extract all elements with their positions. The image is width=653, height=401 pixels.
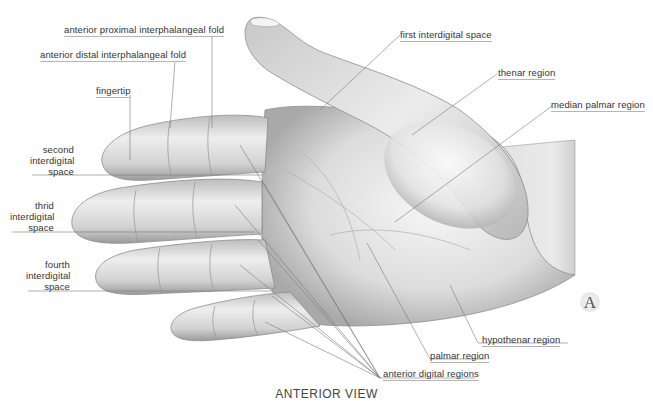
label-fourth-interdigital-space: fourth interdigital space — [26, 259, 70, 292]
label-line: thrid — [10, 200, 54, 211]
label-line: interdigital — [26, 270, 70, 281]
label-anterior-proximal-interphalangeal-fold: anterior proximal interphalangeal fold — [64, 24, 224, 37]
label-fingertip: fingertip — [96, 85, 131, 98]
label-line: fourth — [26, 259, 70, 270]
label-median-palmar-region: median palmar region — [551, 99, 645, 112]
label-second-interdigital-space: second interdigital space — [30, 144, 74, 177]
figure-caption: ANTERIOR VIEW — [0, 387, 653, 401]
label-thenar-region: thenar region — [498, 67, 555, 80]
label-hypothenar-region: hypothenar region — [482, 334, 560, 347]
label-line: space — [30, 166, 74, 177]
label-line: space — [10, 222, 54, 233]
label-line: space — [26, 281, 70, 292]
label-anterior-digital-regions: anterior digital regions — [383, 368, 479, 381]
label-line: interdigital — [10, 211, 54, 222]
label-line: interdigital — [30, 155, 74, 166]
label-line: second — [30, 144, 74, 155]
label-anterior-distal-interphalangeal-fold: anterior distal interphalangeal fold — [40, 49, 186, 62]
label-first-interdigital-space: first interdigital space — [400, 29, 492, 42]
label-palmar-region: palmar region — [430, 350, 489, 363]
label-third-interdigital-space: thrid interdigital space — [10, 200, 54, 233]
panel-marker: A — [580, 292, 600, 312]
